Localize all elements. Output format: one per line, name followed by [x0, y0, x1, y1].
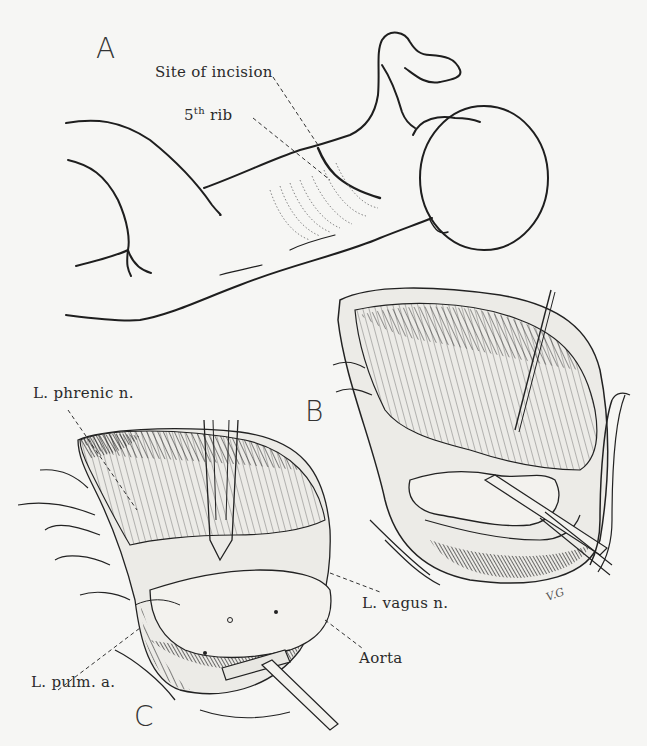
surgical-illustration: A B C Site of incision 5th rib L. phreni… — [0, 0, 647, 746]
panel-b-thoracotomy — [333, 288, 630, 585]
rib-contours — [270, 163, 378, 240]
label-site-of-incision: Site of incision — [155, 63, 273, 81]
fifth-rib-word: rib — [210, 106, 232, 124]
label-left-phrenic-nerve: L. phrenic n. — [33, 384, 134, 402]
label-left-vagus-nerve: L. vagus n. — [362, 594, 448, 612]
label-left-pulmonary-artery: L. pulm. a. — [31, 673, 115, 691]
fifth-rib-ordinal: th — [194, 105, 205, 116]
fifth-rib-number: 5 — [184, 106, 194, 124]
label-aorta: Aorta — [359, 649, 403, 667]
line-art — [0, 0, 647, 746]
panel-a-infant — [66, 33, 548, 321]
panel-label-c: C — [134, 700, 154, 733]
label-fifth-rib: 5th rib — [184, 105, 232, 124]
panel-label-b: B — [305, 395, 324, 428]
panel-label-a: A — [96, 32, 115, 65]
